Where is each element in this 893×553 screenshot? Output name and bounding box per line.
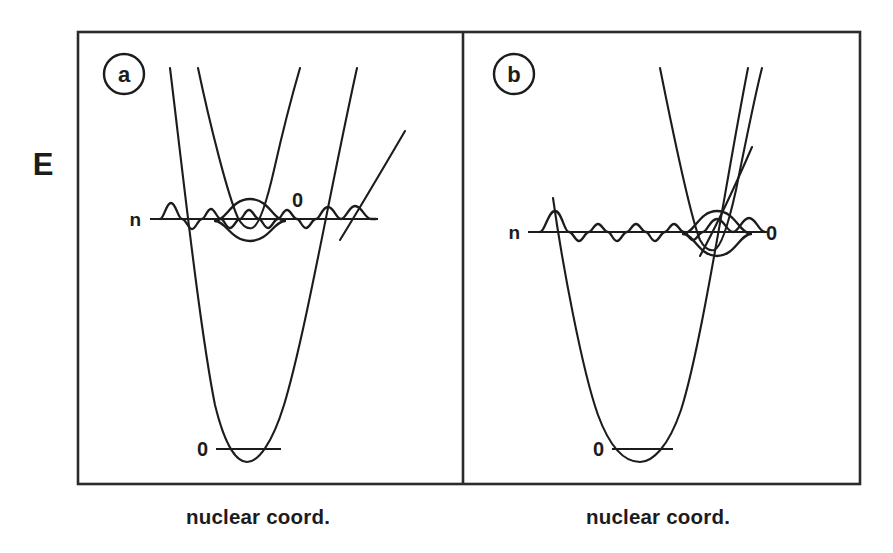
panel-a-n-label: n [129,209,141,230]
panel-b-upper-zero-label: 0 [766,222,777,244]
figure-container: E a n 0 [0,0,893,553]
panel-b: b n 0 0 nuclear coord. [494,54,777,528]
panel-a-x-axis-label: nuclear coord. [186,505,330,528]
panel-b-n-label: n [508,222,520,243]
panel-b-ground-state-potential [553,68,748,462]
potential-energy-diagram: E a n 0 [0,0,893,553]
panel-a-ground-state-potential [170,68,357,462]
y-axis-label: E [33,147,54,182]
panel-a-lower-zero-label: 0 [197,438,208,460]
panel-a-crossing-branch [340,131,405,240]
panel-a: a n 0 0 nuclear coord. [104,54,405,528]
panel-b-badge: b [494,54,534,94]
panel-a-badge: a [104,54,144,94]
panel-a-badge-label: a [118,62,131,87]
panel-b-lower-zero-label: 0 [593,438,604,460]
panel-a-excited-state-potential [198,68,300,228]
panel-b-crossing-branch [700,147,752,256]
panel-a-upper-zero-label: 0 [292,189,303,211]
panel-b-x-axis-label: nuclear coord. [586,505,730,528]
panel-b-badge-label: b [507,62,520,87]
